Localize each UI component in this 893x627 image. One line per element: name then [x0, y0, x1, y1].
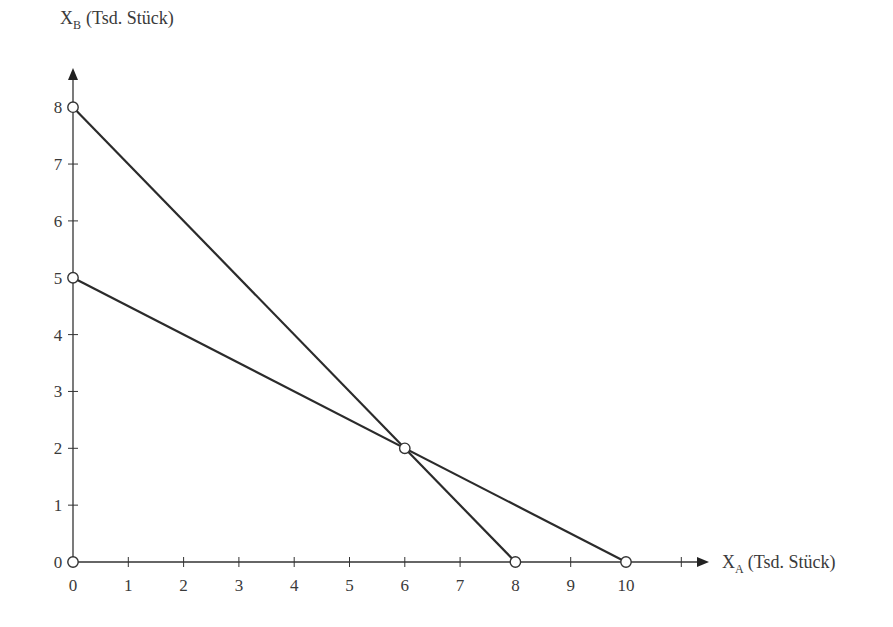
- data-point-marker: [400, 443, 410, 453]
- axes: [68, 68, 709, 567]
- marked-points: [68, 102, 631, 567]
- x-tick-label: 0: [69, 576, 78, 595]
- x-tick-label: 3: [235, 576, 244, 595]
- x-tick-label: 8: [511, 576, 520, 595]
- data-point-marker: [621, 557, 631, 567]
- x-tick-label: 6: [401, 576, 410, 595]
- y-tick-label: 6: [54, 212, 63, 231]
- y-tick-label: 4: [54, 326, 63, 345]
- y-axis-label: XB(Tsd. Stück): [60, 8, 174, 32]
- x-axis-arrow-icon: [697, 557, 709, 567]
- series-line-1: [73, 107, 515, 562]
- x-tick-label: 10: [618, 576, 635, 595]
- x-tick-label: 2: [179, 576, 188, 595]
- chart-canvas: 012345678910 012345678 XB(Tsd. Stück) XA…: [0, 0, 893, 627]
- data-point-marker: [68, 557, 78, 567]
- x-axis-label: XA(Tsd. Stück): [722, 552, 835, 576]
- y-tick-label: 2: [54, 439, 63, 458]
- x-axis-ticks: 012345678910: [69, 557, 682, 595]
- data-point-marker: [68, 102, 78, 112]
- series-line-2: [73, 278, 626, 562]
- y-tick-label: 0: [54, 553, 63, 572]
- x-tick-label: 5: [345, 576, 354, 595]
- x-tick-label: 1: [124, 576, 133, 595]
- x-tick-label: 9: [566, 576, 575, 595]
- y-axis-arrow-icon: [68, 68, 78, 80]
- y-tick-label: 3: [54, 382, 63, 401]
- data-point-marker: [510, 557, 520, 567]
- x-tick-label: 7: [456, 576, 465, 595]
- y-tick-label: 1: [54, 496, 63, 515]
- x-tick-label: 4: [290, 576, 299, 595]
- data-point-marker: [68, 273, 78, 283]
- y-tick-label: 8: [54, 98, 63, 117]
- y-tick-label: 5: [54, 269, 63, 288]
- y-tick-label: 7: [54, 155, 63, 174]
- data-series: [73, 107, 626, 562]
- y-axis-ticks: 012345678: [54, 98, 78, 572]
